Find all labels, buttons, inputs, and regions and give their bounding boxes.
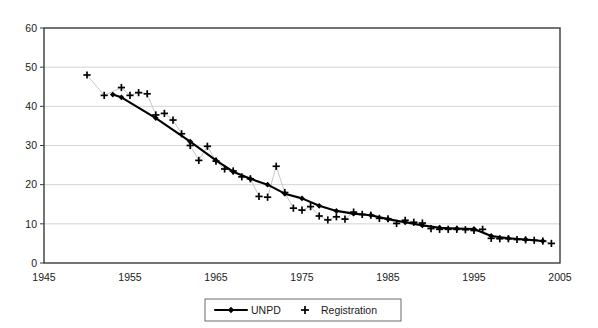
x-tick-label-1975: 1975 bbox=[290, 271, 314, 283]
chart-container: 0102030405060 19451955196519751985199520… bbox=[0, 0, 598, 328]
x-tick-label-1995: 1995 bbox=[462, 271, 486, 283]
y-tick-label-10: 10 bbox=[25, 218, 37, 230]
y-tick-label-60: 60 bbox=[25, 22, 37, 34]
chart-legend: UNPD Registration bbox=[205, 299, 401, 321]
legend-label-unpd: UNPD bbox=[251, 304, 281, 316]
y-tick-label-50: 50 bbox=[25, 61, 37, 73]
y-tick-label-20: 20 bbox=[25, 178, 37, 190]
x-tick-label-1985: 1985 bbox=[376, 271, 400, 283]
x-tick-label-1945: 1945 bbox=[32, 271, 56, 283]
infant-mortality-chart: 0102030405060 19451955196519751985199520… bbox=[0, 0, 598, 328]
y-tick-label-0: 0 bbox=[31, 257, 37, 269]
x-tick-label-2005: 2005 bbox=[548, 271, 572, 283]
y-tick-label-40: 40 bbox=[25, 100, 37, 112]
y-tick-label-30: 30 bbox=[25, 139, 37, 151]
x-tick-label-1955: 1955 bbox=[118, 271, 142, 283]
legend-label-registration: Registration bbox=[321, 304, 377, 316]
x-tick-label-1965: 1965 bbox=[204, 271, 228, 283]
